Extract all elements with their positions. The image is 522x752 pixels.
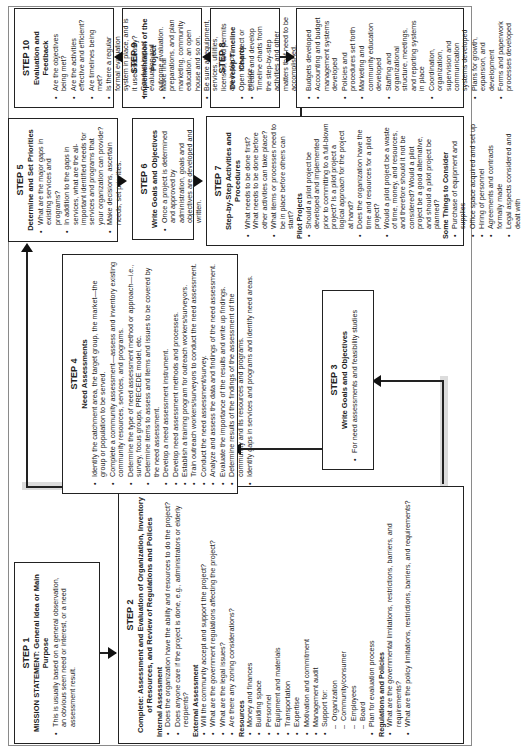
step-number: STEP 2	[125, 493, 136, 737]
connector-line	[380, 380, 444, 382]
bullet: What are the policy limitations, restric…	[404, 493, 412, 727]
step-8-outcomes-box: Budgets developed Accounting and budget …	[296, 8, 464, 108]
bullet: Does the organization have the ability a…	[164, 493, 172, 727]
step-10-box: STEP 10 Evaluation and Feedback Are the …	[14, 8, 114, 108]
bullet: What are the governmental limitations, r…	[386, 493, 403, 727]
bullet: Determine items to assess and items and …	[144, 261, 161, 477]
bullet: Building space	[255, 493, 263, 727]
bullet: What items or processes need to be in pl…	[270, 123, 295, 229]
bullet: Analyze and assess the data and findings…	[209, 261, 217, 477]
bullet: Will the community accept and support th…	[200, 493, 208, 727]
bullet: Coordination, organization, supervision …	[428, 15, 470, 91]
step-number: STEP 3	[329, 297, 340, 463]
bullet: What are the legal issues?	[219, 493, 227, 727]
bullet: Expertise	[293, 493, 301, 727]
bullet: Complete a community assessment—assess a…	[109, 261, 126, 477]
bullet: Train outreach workers/surveyors to cond…	[190, 261, 198, 477]
bullet: What are the government regulations affe…	[209, 493, 217, 727]
bullet: What needs to be done first? What needs …	[244, 123, 269, 229]
bullet: Once a project is determined and approve…	[161, 125, 203, 223]
connector-line	[26, 486, 62, 488]
connector-line	[300, 108, 302, 116]
bullet: Support for:	[321, 493, 329, 727]
bullet: Develop a need assessment instrument.	[162, 261, 170, 477]
bullet: Agreements and contracts formally made	[487, 123, 504, 229]
connector-line	[442, 380, 444, 484]
step-title: Write Goals and Objectives	[150, 125, 159, 233]
bullet: Forms and paperwork processes developed	[497, 15, 514, 91]
step-7-box: STEP 7 Step-by-Step Activities and Proce…	[206, 116, 464, 246]
bullet: Money and finances	[246, 493, 254, 727]
bullet: Are timelines being met?	[88, 15, 105, 91]
bullet: Office space acquired and set up	[469, 123, 477, 229]
step-1-box: STEP 1 MISSION STATEMENT: General Idea o…	[14, 562, 100, 744]
bullet: Marketing and community education develo…	[358, 15, 383, 91]
arrow-down-icon	[194, 175, 203, 187]
bullet: Conduct the need assessment/survey.	[200, 261, 208, 477]
bullet: Open the project or service.	[238, 15, 255, 91]
step-title: Write Goals and Objectives	[340, 297, 349, 463]
connector-line	[26, 248, 28, 488]
bullet: Identify the catchment area, the target …	[91, 261, 108, 477]
step-number: STEP 1	[21, 569, 32, 737]
step-title: Need Assessments	[80, 261, 89, 487]
bullet: For need assessments and feasibility stu…	[351, 297, 359, 453]
bullet: Are the objectives being met?	[52, 15, 69, 91]
step-title: MISSION STATEMENT: General Idea or Main …	[32, 569, 50, 737]
arrow-down-icon	[286, 51, 295, 63]
bullet: Equipment and materials	[274, 493, 282, 727]
step-title: Evaluation and Feedback	[32, 15, 50, 101]
bullet: Evaluate the importance of the results a…	[219, 261, 227, 477]
bullet: Make final preparations, and plan market…	[160, 15, 202, 91]
arrow-down-icon	[108, 647, 117, 659]
arrow-down-icon	[118, 175, 127, 187]
arrow-up-icon	[114, 51, 123, 63]
bullet: Staffing and organizational structure, m…	[385, 15, 427, 91]
step-number: STEP 6	[139, 125, 150, 233]
bullet: Does the organization have the time and …	[356, 123, 381, 229]
bullet: Plans for growth, expansion, and develop…	[471, 15, 496, 91]
step-title: Determine and Set Priorities	[26, 125, 35, 235]
sub-bullet: Board	[359, 493, 367, 727]
bullet: Motivation and commitment	[303, 493, 311, 727]
bullet: Plan for evaluation process	[368, 493, 376, 727]
step-title: Complete: Assessment and Evaluation of O…	[136, 493, 154, 737]
step-number: STEP 7	[213, 123, 224, 239]
bullet: Should a pilot project be developed and …	[305, 123, 355, 229]
bullet: Policies and procedures set forth	[341, 15, 358, 91]
bullet: Management audit	[312, 493, 320, 727]
bullet: Legal aspects considered and dealt with	[505, 123, 522, 229]
bullet: Are there any zoning considerations?	[228, 493, 236, 727]
bullet: This is usually based on a general obser…	[52, 569, 77, 727]
bullet: What are the major gaps in existing serv…	[37, 125, 62, 225]
bullet: Transportation	[284, 493, 292, 727]
step-3-box: STEP 3 Write Goals and Objectives For ne…	[322, 290, 374, 470]
step-number: STEP 10	[21, 15, 32, 101]
bullet: Would a pilot project be a waste of time…	[383, 123, 442, 229]
bullet: Determine results of the findings of the…	[228, 261, 245, 477]
arrow-up-icon	[202, 51, 211, 63]
bullet: Budgets developed	[305, 15, 313, 91]
sub-bullet: Organization	[331, 493, 339, 727]
bullet: In addition to the gaps in services, wha…	[63, 125, 105, 225]
step-number: STEP 5	[15, 125, 26, 235]
bullet: Establish a training program for outreac…	[181, 261, 189, 477]
bullet: Personnel	[265, 493, 273, 727]
sub-bullet: Community/consumer	[340, 493, 348, 727]
bullet: Does anyone care if the project is done,…	[174, 493, 191, 727]
arrow-right-icon	[21, 243, 33, 252]
bullet: Develop need assessment methods and proc…	[172, 261, 180, 477]
step-2-box: STEP 2 Complete: Assessment and Evaluati…	[118, 486, 464, 744]
step-title: Step-by-Step Activities and Procedures	[224, 123, 242, 239]
bullet: Determine the type of need assessment me…	[127, 261, 144, 477]
bullet: Conduct impact evaluation and outcome ev…	[140, 15, 165, 91]
step-4-box: STEP 4 Need Assessments Identify the cat…	[62, 254, 238, 494]
step-5-box: STEP 5 Determine and Set Priorities What…	[8, 118, 118, 242]
step-number: STEP 4	[69, 261, 80, 487]
bullet: Identify gaps in services and programs a…	[246, 261, 254, 477]
step-6-box: STEP 6 Write Goals and Objectives Once a…	[132, 118, 194, 240]
bullet: Hiring of personnel	[478, 123, 486, 229]
bullet: Accounting and budget management systems…	[314, 15, 339, 91]
bullet: Are the activities effective and efficie…	[70, 15, 87, 91]
